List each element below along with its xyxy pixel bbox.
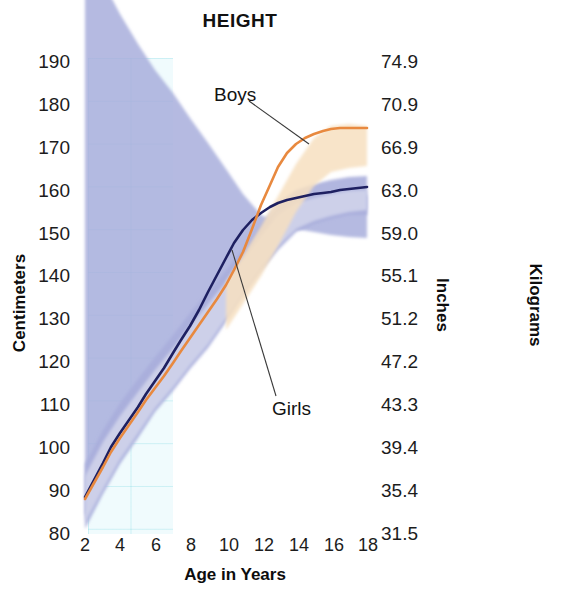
y-tick-left: 170: [38, 138, 70, 157]
y-axis-far-right-title: Kilograms: [525, 250, 545, 360]
boys-line: [85, 128, 367, 499]
grid-patch: [88, 58, 173, 534]
x-tick: 4: [115, 536, 125, 554]
x-tick: 6: [151, 536, 161, 554]
chart-canvas: [0, 0, 567, 598]
girls-line: [85, 187, 367, 497]
y-tick-right: 43.3: [381, 395, 418, 414]
y-tick-right: 51.2: [381, 309, 418, 328]
y-tick-right: 66.9: [381, 138, 418, 157]
girls-band-outer: [85, 0, 367, 516]
y-tick-right: 55.1: [381, 266, 418, 285]
x-tick: 10: [219, 536, 239, 554]
boys-series-label: Boys: [214, 84, 256, 106]
growth-chart: HEIGHT 190 180 170 160 150 140: [0, 0, 567, 598]
girls-leader-line: [232, 250, 276, 396]
y-tick-left: 190: [38, 52, 70, 71]
girls-band: [85, 176, 367, 529]
x-tick: 8: [186, 536, 196, 554]
x-axis-title: Age in Years: [0, 565, 470, 585]
y-tick-left: 160: [38, 181, 70, 200]
y-tick-left: 150: [38, 224, 70, 243]
girls-series-label: Girls: [272, 398, 311, 420]
y-axis-left-title: Centimeters: [10, 253, 30, 353]
girls-band-inner: [85, 190, 367, 522]
y-tick-left: 180: [38, 95, 70, 114]
y-tick-left: 90: [49, 481, 70, 500]
x-axis-ticks: 2 4 6 8 10 12 14 16 18: [0, 536, 567, 560]
x-tick: 2: [80, 536, 90, 554]
x-tick: 14: [289, 536, 309, 554]
y-tick-right: 35.4: [381, 481, 418, 500]
y-tick-left: 110: [40, 395, 70, 414]
boys-band: [226, 124, 367, 330]
y-tick-left: 120: [38, 352, 70, 371]
y-tick-left: 100: [38, 438, 70, 457]
y-tick-right: 47.2: [381, 352, 418, 371]
y-tick-right: 39.4: [381, 438, 418, 457]
y-tick-right: 63.0: [381, 181, 418, 200]
y-tick-right: 59.0: [381, 224, 418, 243]
x-tick: 16: [324, 536, 344, 554]
x-tick: 18: [358, 536, 378, 554]
y-tick-left: 140: [38, 266, 70, 285]
y-tick-right: 74.9: [381, 52, 418, 71]
y-tick-right: 70.9: [381, 95, 418, 114]
y-axis-right-title: Inches: [432, 255, 452, 355]
y-tick-left: 130: [38, 309, 70, 328]
boys-leader-line: [249, 101, 309, 144]
x-tick: 12: [254, 536, 274, 554]
